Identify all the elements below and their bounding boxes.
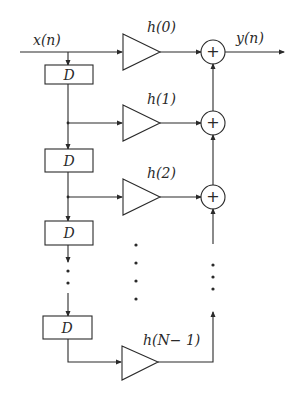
tap-n-line — [68, 339, 121, 362]
output-label: y(n) — [236, 31, 264, 45]
gain-h2-triangle — [123, 179, 160, 215]
gain-h0-triangle — [123, 34, 160, 70]
delay-n-label: D — [43, 321, 91, 335]
gain-h2-label: h(2) — [147, 166, 176, 180]
delay-3-label: D — [45, 226, 93, 240]
gain-hn-label: h(N− 1) — [143, 333, 200, 347]
gain-h1-triangle — [123, 105, 160, 141]
adder-1-plus: + — [201, 115, 225, 131]
gain-hn-triangle — [122, 346, 158, 380]
gain-h1-label: h(1) — [147, 92, 176, 106]
delay-1-label: D — [45, 68, 93, 82]
adder-0-plus: + — [201, 44, 225, 60]
adder-2-plus: + — [201, 189, 225, 205]
fir-filter-diagram: x(n) y(n) h(0) h(1) h(2) h(N− 1) D D D D… — [0, 0, 305, 400]
gain-h0-label: h(0) — [147, 20, 176, 34]
delay-2-label: D — [45, 154, 93, 168]
input-label: x(n) — [33, 33, 61, 47]
